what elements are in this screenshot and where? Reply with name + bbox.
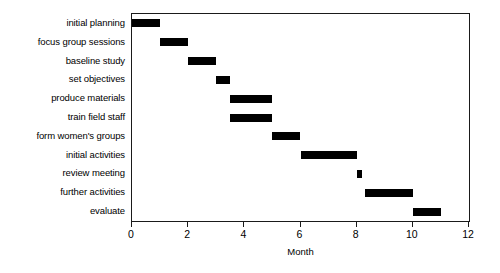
x-tick-mark [243,222,244,227]
x-tick-label: 2 [172,228,202,241]
task-label: initial planning [0,17,125,28]
gantt-bar [413,208,441,216]
gantt-bar [216,76,230,84]
gantt-bar [357,170,363,178]
task-label-column: initial planningfocus group sessionsbase… [0,13,128,222]
task-label: further activities [0,186,125,197]
x-tick-mark [131,222,132,227]
x-tick-mark [187,222,188,227]
gantt-chart-figure: initial planningfocus group sessionsbase… [0,0,500,273]
x-tick-mark [300,222,301,227]
gantt-bar [132,19,160,27]
task-label: train field staff [0,111,125,122]
task-label: baseline study [0,55,125,66]
task-label: focus group sessions [0,36,125,47]
x-tick-mark [356,222,357,227]
gantt-bar [272,132,300,140]
gantt-plot-area [131,13,470,222]
x-tick-mark [412,222,413,227]
x-tick-label: 8 [341,228,371,241]
gantt-bar [230,114,272,122]
task-label: evaluate [0,205,125,216]
x-tick-label: 0 [116,228,146,241]
x-tick-label: 12 [453,228,483,241]
task-label: set objectives [0,73,125,84]
gantt-bar [301,151,357,159]
task-label: produce materials [0,92,125,103]
x-tick-label: 4 [228,228,258,241]
x-axis-ticklabels: 024681012 [131,228,470,242]
x-tick-label: 6 [285,228,315,241]
x-axis-title: Month [131,246,470,258]
x-tick-mark [468,222,469,227]
task-label: initial activities [0,149,125,160]
gantt-bar [230,95,272,103]
x-tick-label: 10 [397,228,427,241]
gantt-bar [160,38,188,46]
gantt-bar [188,57,216,65]
gantt-bar [365,189,413,197]
task-label: form women's groups [0,130,125,141]
task-label: review meeting [0,167,125,178]
